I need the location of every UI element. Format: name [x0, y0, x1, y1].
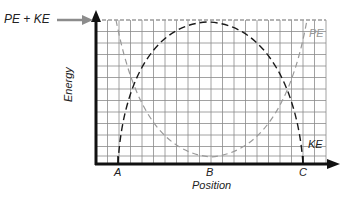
position-label-a: A	[114, 166, 121, 178]
x-axis-label: Position	[192, 179, 231, 191]
grid	[96, 20, 326, 164]
x-axis-arrow	[327, 159, 340, 169]
y-axis-label: Energy	[62, 67, 74, 102]
energy-diagram	[0, 0, 348, 200]
pe-label: PE	[309, 27, 324, 39]
total-energy-label: PE + KE	[4, 12, 50, 26]
total-arrow-icon	[82, 15, 93, 25]
pe-curve	[116, 20, 307, 157]
position-label-c: C	[299, 166, 307, 178]
ke-label: KE	[308, 138, 323, 150]
position-label-b: B	[206, 166, 213, 178]
